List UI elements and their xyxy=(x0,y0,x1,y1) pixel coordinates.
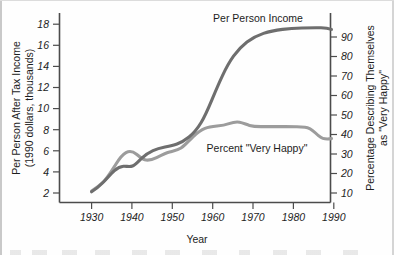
axes-frame xyxy=(60,13,331,203)
x-tick-label-1930: 1930 xyxy=(80,211,104,223)
left-axis-title-line2: (1990 dollars, thousands) xyxy=(23,49,35,168)
right-tick-label-60: 60 xyxy=(341,89,353,101)
x-axis-title: Year xyxy=(186,233,208,245)
right-tick-label-20: 20 xyxy=(340,167,353,179)
x-tick-label-1970: 1970 xyxy=(241,211,265,223)
left-axis-title-line1: Per Person After Tax Income xyxy=(10,41,22,175)
x-tick-label-1990: 1990 xyxy=(322,211,346,223)
page-edge-top xyxy=(0,0,394,1)
right-axis-ticks xyxy=(331,37,338,193)
right-tick-label-90: 90 xyxy=(341,31,353,43)
left-tick-label-2: 2 xyxy=(42,187,49,199)
left-tick-label-10: 10 xyxy=(37,102,49,114)
x-axis-ticks xyxy=(92,203,334,210)
left-axis-ticks xyxy=(53,24,60,193)
left-tick-label-18: 18 xyxy=(37,18,49,30)
right-axis-title-line2: as "Very Happy" xyxy=(377,70,389,146)
page-edge-left xyxy=(0,0,2,255)
left-tick-label-6: 6 xyxy=(43,145,49,157)
right-tick-label-70: 70 xyxy=(341,70,353,82)
page-bottom-partial-text xyxy=(10,250,380,255)
left-axis-title: Per Person After Tax Income (1990 dollar… xyxy=(10,41,35,175)
right-tick-label-40: 40 xyxy=(341,128,353,140)
income-happiness-line-chart: 2 4 6 8 10 12 14 16 18 10 20 30 40 xyxy=(0,0,394,255)
right-tick-label-50: 50 xyxy=(341,109,353,121)
annotation-per-person-income: Per Person Income xyxy=(213,12,303,24)
right-tick-label-10: 10 xyxy=(341,187,353,199)
right-axis-title-line1: Percentage Describing Themselves xyxy=(364,25,376,191)
x-tick-label-1980: 1980 xyxy=(282,211,306,223)
chart-figure: 2 4 6 8 10 12 14 16 18 10 20 30 40 xyxy=(0,0,394,255)
left-tick-label-12: 12 xyxy=(37,81,49,93)
x-axis-tick-labels: 1930 1940 1950 1960 1970 1980 1990 xyxy=(80,211,346,223)
left-tick-label-16: 16 xyxy=(37,39,49,51)
series-line-per-person-income xyxy=(92,28,332,192)
left-tick-label-14: 14 xyxy=(37,60,49,72)
right-tick-label-80: 80 xyxy=(341,50,353,62)
x-tick-label-1950: 1950 xyxy=(161,211,185,223)
right-axis-title: Percentage Describing Themselves as "Ver… xyxy=(364,25,389,191)
right-tick-label-30: 30 xyxy=(341,148,353,160)
annotation-percent-very-happy: Percent "Very Happy" xyxy=(207,142,308,154)
left-axis-tick-labels: 2 4 6 8 10 12 14 16 18 xyxy=(37,18,49,199)
right-axis-tick-labels: 10 20 30 40 50 60 70 80 90 xyxy=(340,31,353,199)
x-tick-label-1940: 1940 xyxy=(120,211,144,223)
x-tick-label-1960: 1960 xyxy=(201,211,225,223)
series-line-percent-very-happy xyxy=(92,122,332,191)
left-tick-label-8: 8 xyxy=(43,124,49,136)
left-tick-label-4: 4 xyxy=(43,166,49,178)
